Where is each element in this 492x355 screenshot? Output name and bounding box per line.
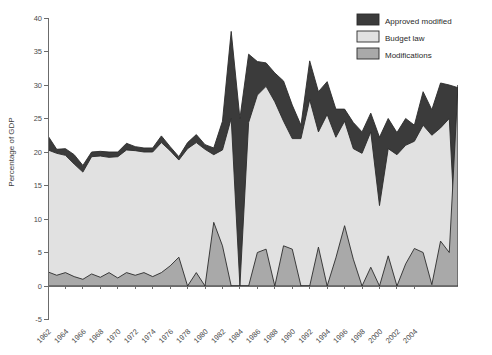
x-tick-label: 1962 (35, 327, 53, 345)
x-tick-label: 1970 (105, 327, 123, 345)
x-tick-label: 1986 (244, 327, 262, 345)
legend-swatch-0 (357, 14, 379, 25)
x-tick-label: 1994 (314, 327, 332, 345)
x-tick-label: 1972 (122, 327, 140, 345)
legend: Approved modifiedBudget lawModifications (357, 14, 452, 60)
legend-swatch-1 (357, 31, 379, 42)
x-tick-label: 1990 (279, 327, 297, 345)
y-axis-title: Percentage of GDP (7, 117, 16, 186)
y-tick-label: 15 (34, 181, 42, 190)
legend-label-1: Budget law (385, 34, 425, 43)
gdp-area-chart: -505101520253035401962196419661968197019… (0, 0, 492, 355)
y-tick-label: 0 (38, 282, 42, 291)
series-area-1 (48, 86, 458, 286)
x-tick-label: 1982 (209, 327, 227, 345)
y-tick-label: 5 (38, 248, 42, 257)
x-tick-label: 1978 (174, 327, 192, 345)
x-tick-label: 1980 (192, 327, 210, 345)
y-tick-label: 30 (34, 81, 42, 90)
y-tick-label: 10 (34, 215, 42, 224)
legend-swatch-2 (357, 48, 379, 59)
legend-label-0: Approved modified (385, 17, 452, 26)
chart-container: -505101520253035401962196419661968197019… (0, 0, 492, 355)
x-tick-label: 1968 (87, 327, 105, 345)
x-tick-label: 1996 (331, 327, 349, 345)
x-tick-label: 1966 (70, 327, 88, 345)
y-tick-label: -5 (35, 315, 42, 324)
x-tick-label: 1992 (296, 327, 314, 345)
y-tick-label: 25 (34, 114, 42, 123)
x-tick-label: 1988 (262, 327, 280, 345)
legend-label-2: Modifications (385, 51, 432, 60)
y-tick-label: 35 (34, 47, 42, 56)
x-tick-label: 1998 (349, 327, 367, 345)
y-tick-label: 20 (34, 148, 42, 157)
y-tick-label: 40 (34, 14, 42, 23)
x-tick-label: 2004 (401, 327, 419, 345)
x-tick-label: 1974 (139, 327, 157, 345)
x-tick-label: 1984 (227, 327, 245, 345)
x-tick-label: 1976 (157, 327, 175, 345)
x-tick-label: 2002 (384, 327, 402, 345)
x-tick-label: 2000 (366, 327, 384, 345)
x-tick-label: 1964 (52, 327, 70, 345)
